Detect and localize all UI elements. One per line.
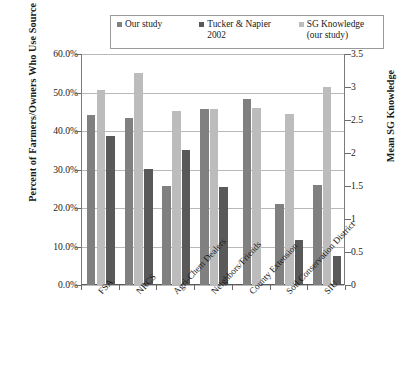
bar-sg-knowledge-2 [134, 73, 143, 285]
bar-our-study-3 [162, 186, 171, 285]
y-axis-tick-mark [75, 93, 81, 94]
secondary-y-axis-tick-label: 3.5 [351, 49, 391, 59]
bar-our-study-2 [125, 118, 134, 285]
bar-tucker-napier-3 [182, 150, 191, 285]
secondary-y-axis-tick-label: 3 [351, 82, 391, 92]
y-axis-tick-mark [75, 131, 81, 132]
secondary-y-axis-tick-label: 1.5 [351, 181, 391, 191]
legend-item-tucker-napier: Tucker & Napier 2002 [199, 19, 298, 40]
secondary-y-axis-tick-mark [345, 120, 351, 121]
y-axis-tick-label: 40.0% [18, 126, 78, 136]
y-axis-tick-label: 50.0% [18, 88, 78, 98]
bar-sg-knowledge-1 [97, 90, 106, 285]
secondary-y-axis-tick-mark [345, 252, 351, 253]
secondary-y-axis-tick-label: 0 [351, 280, 391, 290]
y-axis-tick-mark [75, 54, 81, 55]
y-axis-tick-mark [75, 208, 81, 209]
legend-item-sg-knowledge: SG Knowledge (our study) [299, 19, 379, 40]
x-axis-tick-mark [194, 285, 195, 290]
x-axis-tick-mark [307, 285, 308, 290]
y-axis-tick-label: 60.0% [18, 49, 78, 59]
secondary-y-axis-tick-mark [345, 186, 351, 187]
bar-tucker-napier-2 [144, 169, 153, 285]
bar-sg-knowledge-3 [172, 111, 181, 285]
x-axis-tick-mark [232, 285, 233, 290]
bar-chart: Our study Tucker & Napier 2002 SG Knowle… [0, 0, 404, 380]
legend-label-tucker-napier: Tucker & Napier 2002 [207, 19, 271, 40]
secondary-y-axis-tick-label: 0.5 [351, 247, 391, 257]
x-axis-tick-mark [119, 285, 120, 290]
secondary-y-axis-tick-mark [345, 87, 351, 88]
secondary-y-axis-tick-label: 2 [351, 148, 391, 158]
x-axis-tick-mark [345, 285, 346, 290]
y-axis-tick-label: 30.0% [18, 165, 78, 175]
secondary-y-axis-tick-mark [345, 54, 351, 55]
legend-swatch-tucker-napier [199, 22, 204, 27]
x-axis-tick-mark [270, 285, 271, 290]
secondary-y-axis-tick-label: 1 [351, 214, 391, 224]
x-axis-tick-mark [156, 285, 157, 290]
y-axis-tick-mark [75, 170, 81, 171]
legend-swatch-our-study [117, 22, 122, 27]
bar-our-study-1 [87, 115, 96, 285]
chart-legend: Our study Tucker & Napier 2002 SG Knowle… [110, 15, 384, 49]
y-axis-tick-mark [75, 247, 81, 248]
x-axis-tick-mark [81, 285, 82, 290]
secondary-y-axis-tick-mark [345, 153, 351, 154]
legend-label-sg-knowledge: SG Knowledge (our study) [307, 19, 365, 40]
y-axis-tick-label: 20.0% [18, 203, 78, 213]
secondary-y-axis-tick-label: 2.5 [351, 115, 391, 125]
legend-item-our-study: Our study [117, 19, 199, 30]
bar-sg-knowledge-5 [252, 108, 261, 285]
legend-label-our-study: Our study [125, 19, 162, 30]
y-axis-tick-label: 0.0% [18, 280, 78, 290]
legend-swatch-sg-knowledge [299, 22, 304, 27]
bar-tucker-napier-1 [106, 136, 115, 285]
y-axis-tick-label: 10.0% [18, 242, 78, 252]
